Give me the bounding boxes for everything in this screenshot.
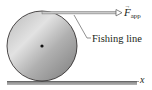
cylinder-center-dot xyxy=(40,44,43,47)
force-arrowhead xyxy=(116,10,122,16)
cylinder-on-floor-diagram: Fapp → Fishing line x xyxy=(0,0,152,90)
force-subscript: app xyxy=(131,12,142,20)
x-axis-label: x xyxy=(139,74,145,85)
fishing-line-label: Fishing line xyxy=(92,33,142,44)
vector-arrow-glyph: → xyxy=(125,3,131,9)
fishing-line xyxy=(42,12,117,14)
fishing-line-leader xyxy=(74,15,91,38)
